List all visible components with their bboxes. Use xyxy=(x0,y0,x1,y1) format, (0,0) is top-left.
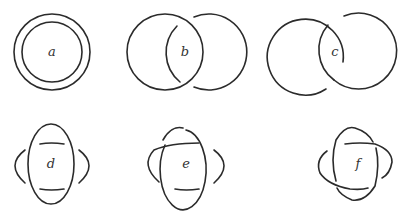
panel-b: b xyxy=(127,14,247,90)
panel-f: f xyxy=(319,128,392,201)
right-circle-inner-arc xyxy=(166,26,180,82)
panel-d: d xyxy=(15,124,89,204)
bottom-arc xyxy=(175,189,199,190)
right-side-arc xyxy=(214,150,224,183)
vertical-loop-top xyxy=(333,128,373,182)
left-side-arc xyxy=(15,150,25,183)
label-b: b xyxy=(181,44,189,59)
panel-a: a xyxy=(14,14,90,90)
label-d: d xyxy=(47,156,55,171)
label-a: a xyxy=(48,44,56,59)
panel-e: e xyxy=(148,128,224,210)
label-c: c xyxy=(331,44,339,59)
right-side-arc xyxy=(79,150,89,183)
top-arc xyxy=(40,143,64,144)
left-circle xyxy=(127,14,203,90)
bottom-arc xyxy=(40,189,64,190)
knot-diagram-figure: a b c d e xyxy=(0,0,409,219)
label-f: f xyxy=(355,156,363,171)
over-arc xyxy=(148,143,199,182)
ellipse-top-segment xyxy=(163,128,183,140)
horizontal-loop-left xyxy=(319,151,368,189)
horizontal-loop-right xyxy=(345,143,392,178)
label-e: e xyxy=(182,156,190,171)
panel-c: c xyxy=(267,13,396,95)
right-circle-outer-arc xyxy=(194,14,247,90)
